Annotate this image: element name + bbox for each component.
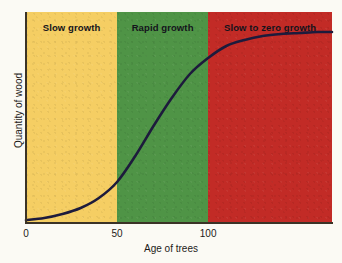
y-axis-title: Quantity of wood xyxy=(13,46,24,176)
tree-growth-chart: Slow growth Rapid growth Slow to zero gr… xyxy=(0,0,342,263)
x-tick-label-50: 50 xyxy=(102,228,132,239)
plot-area: Slow growth Rapid growth Slow to zero gr… xyxy=(26,12,332,222)
x-axis-line xyxy=(25,222,333,224)
y-axis-line xyxy=(25,12,27,224)
x-tick-label-100: 100 xyxy=(193,228,223,239)
growth-curve-line xyxy=(26,32,332,220)
growth-curve-svg xyxy=(26,12,332,222)
x-tick-label-0: 0 xyxy=(11,228,41,239)
x-axis-title: Age of trees xyxy=(0,243,342,254)
